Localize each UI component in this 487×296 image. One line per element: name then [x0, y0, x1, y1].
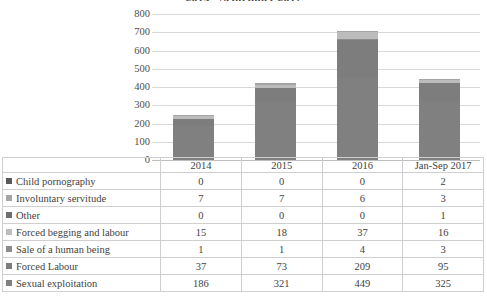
y-tick-700: 700	[134, 27, 150, 37]
legend-row-label: Child pornography	[3, 173, 161, 190]
legend-row-label: Involuntary servitude	[3, 190, 161, 207]
bar-segment[interactable]	[173, 126, 214, 160]
table-cell-value: 6	[322, 190, 403, 207]
y-tick-400: 400	[134, 82, 150, 92]
legend-label-text: Sexual exploitation	[16, 278, 97, 289]
bar-series-group	[152, 14, 480, 160]
stacked-bar[interactable]	[255, 83, 296, 160]
legend-swatch-icon	[6, 263, 12, 269]
bar-slot-2014	[152, 14, 234, 160]
legend-swatch-icon	[6, 246, 12, 252]
table-cell-value: 7	[241, 190, 322, 207]
table-cell-value: 0	[322, 173, 403, 190]
bar-segment[interactable]	[419, 101, 460, 160]
bar-segment[interactable]	[173, 119, 214, 126]
bar-segment[interactable]	[337, 40, 378, 78]
bar-segment[interactable]	[337, 32, 378, 39]
legend-row-label: Other	[3, 207, 161, 224]
table-cell-value: 1	[241, 241, 322, 258]
bar-slot-2015	[234, 14, 316, 160]
table-row: Other0001	[3, 207, 484, 224]
table-row: Sexual exploitation186321449325	[3, 275, 484, 292]
legend-label-text: Other	[16, 210, 40, 221]
stacked-bar[interactable]	[337, 31, 378, 160]
table-cell-value: 37	[322, 224, 403, 241]
plot-area	[152, 14, 480, 161]
table-cell-value: 95	[403, 258, 484, 275]
table-cell-value: 186	[161, 275, 242, 292]
chart-figure: 2014 - September 2017 010020030040050060…	[0, 0, 487, 296]
table-row: Involuntary servitude7763	[3, 190, 484, 207]
bar-segment[interactable]	[419, 83, 460, 100]
table-cell-value: 18	[241, 224, 322, 241]
table-cell-value: 16	[403, 224, 484, 241]
table-cell-value: 15	[161, 224, 242, 241]
legend-label-text: Child pornography	[16, 176, 96, 187]
legend-label-text: Sale of a human being	[16, 244, 110, 255]
table-cell-value: 3	[403, 190, 484, 207]
table-header: 2014 2015 2016 Jan-Sep 2017	[3, 158, 484, 173]
legend-swatch-icon	[6, 280, 12, 286]
bar-slot-2016	[316, 14, 398, 160]
table-row: Forced Labour377320995	[3, 258, 484, 275]
legend-swatch-icon	[6, 212, 12, 218]
table-cell-value: 37	[161, 258, 242, 275]
legend-swatch-icon	[6, 195, 12, 201]
y-tick-300: 300	[134, 100, 150, 110]
table-cell-value: 0	[241, 207, 322, 224]
legend-row-label: Sale of a human being	[3, 241, 161, 258]
table-body: Child pornography0002Involuntary servitu…	[3, 173, 484, 292]
table-header-row: 2014 2015 2016 Jan-Sep 2017	[3, 158, 484, 173]
bar-segment[interactable]	[337, 78, 378, 160]
legend-row-label: Forced begging and labour	[3, 224, 161, 241]
table-cell-value: 321	[241, 275, 322, 292]
bar-slot-jan-sep-2017	[398, 14, 480, 160]
bar-segment[interactable]	[255, 101, 296, 160]
y-axis-tick-labels: 0100200300400500600700800	[112, 8, 150, 156]
y-tick-800: 800	[134, 9, 150, 19]
table-row: Sale of a human being1143	[3, 241, 484, 258]
table-cell-value: 3	[403, 241, 484, 258]
table-cell-value: 325	[403, 275, 484, 292]
bar-segment[interactable]	[255, 88, 296, 101]
table-header-2016: 2016	[322, 158, 403, 173]
y-tick-600: 600	[134, 46, 150, 56]
table-cell-value: 73	[241, 258, 322, 275]
table-cell-value: 4	[322, 241, 403, 258]
legend-row-label: Forced Labour	[3, 258, 161, 275]
legend-row-label: Sexual exploitation	[3, 275, 161, 292]
y-tick-200: 200	[134, 119, 150, 129]
table-cell-value: 0	[161, 207, 242, 224]
chart-title: 2014 - September 2017	[0, 0, 487, 1]
table-header-jan-sep-2017: Jan-Sep 2017	[403, 158, 484, 173]
table-cell-value: 1	[161, 241, 242, 258]
table-cell-value: 1	[403, 207, 484, 224]
y-tick-100: 100	[134, 137, 150, 147]
data-table: 2014 2015 2016 Jan-Sep 2017 Child pornog…	[2, 157, 484, 292]
table-row: Child pornography0002	[3, 173, 484, 190]
table-cell-value: 7	[161, 190, 242, 207]
legend-label-text: Involuntary servitude	[16, 193, 106, 204]
stacked-bar[interactable]	[419, 79, 460, 160]
table-cell-value: 0	[161, 173, 242, 190]
table-cell-value: 2	[403, 173, 484, 190]
table-cell-value: 209	[322, 258, 403, 275]
table-header-blank	[3, 158, 161, 173]
legend-swatch-icon	[6, 178, 12, 184]
plot-wrapper: 0100200300400500600700800	[0, 8, 487, 158]
table-cell-value: 0	[322, 207, 403, 224]
stacked-bar[interactable]	[173, 115, 214, 160]
table-cell-value: 0	[241, 173, 322, 190]
table-header-2015: 2015	[241, 158, 322, 173]
legend-label-text: Forced begging and labour	[16, 227, 129, 238]
table-header-2014: 2014	[161, 158, 242, 173]
table-cell-value: 449	[322, 275, 403, 292]
legend-label-text: Forced Labour	[16, 261, 78, 272]
table-row: Forced begging and labour15183716	[3, 224, 484, 241]
y-tick-500: 500	[134, 64, 150, 74]
legend-swatch-icon	[6, 229, 12, 235]
